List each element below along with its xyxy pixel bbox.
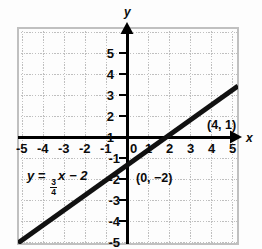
coordinate-graph-figure: -5 -4 -3 -2 -1 0 1 2 3 4 5 5 4 3 2 1 -1 … (0, 0, 262, 249)
equation-equals: = (38, 168, 46, 183)
y-tick-label: 2 (107, 110, 114, 123)
x-tick-label: -3 (58, 142, 70, 155)
point-label-4-1: (4, 1) (207, 119, 236, 132)
y-tick-label: -5 (108, 236, 120, 249)
equation-lhs: y (27, 168, 34, 183)
x-tick-label: -5 (16, 142, 28, 155)
y-tick-label: -4 (108, 215, 120, 228)
y-tick-label: 1 (107, 131, 114, 144)
x-origin-label: 0 (130, 142, 137, 155)
x-tick-label: 3 (187, 142, 194, 155)
equation-fraction: 3 4 (50, 178, 57, 197)
equation-minus: − (69, 168, 77, 183)
fraction-numerator: 3 (51, 178, 56, 187)
equation-constant: 2 (80, 168, 87, 183)
x-tick-label: -4 (37, 142, 49, 155)
point-label-0-neg2: (0, −2) (136, 172, 172, 185)
y-tick-label: -1 (108, 152, 120, 165)
equation-variable: x (58, 168, 65, 183)
y-tick-label: 4 (107, 68, 114, 81)
x-tick-label: 2 (166, 142, 173, 155)
y-tick-label: -2 (108, 173, 120, 186)
y-tick-label: 3 (107, 89, 114, 102)
x-tick-label: 1 (145, 142, 152, 155)
x-tick-label: 4 (208, 142, 215, 155)
equation-label: y = 3 4 x − 2 (27, 169, 87, 197)
y-tick-label: -3 (108, 194, 120, 207)
x-tick-label: -2 (79, 142, 91, 155)
x-axis-name: x (246, 132, 253, 144)
fraction-denominator: 4 (51, 188, 56, 197)
x-tick-label: 5 (229, 142, 236, 155)
y-axis-name: y (124, 6, 131, 18)
y-tick-label: 5 (107, 47, 114, 60)
